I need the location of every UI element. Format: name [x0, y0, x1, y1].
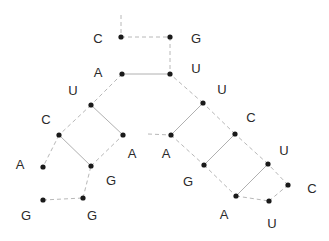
nucleotide-dot — [118, 34, 123, 39]
nucleotide-label: U — [267, 216, 276, 231]
backbone-layer — [43, 15, 288, 201]
nucleotide-label: A — [162, 146, 171, 161]
backbone-link — [148, 134, 171, 135]
nucleotide-dot — [40, 197, 45, 202]
nucleotide-u: U — [265, 143, 288, 166]
nucleotide-g: G — [80, 195, 97, 223]
nucleotide-c: C — [285, 181, 316, 196]
backbone-link — [83, 166, 91, 198]
nucleotide-a: A — [16, 157, 46, 172]
nucleotide-layer: CAUCAGGGAAGAUCUCUUG — [16, 31, 317, 231]
rna-structure-diagram: CAUCAGGGAAGAUCUCUUG — [0, 0, 329, 241]
nucleotide-dot — [200, 100, 205, 105]
nucleotide-label: U — [191, 61, 200, 76]
nucleotide-label: A — [16, 157, 25, 172]
nucleotide-g: G — [167, 31, 201, 46]
nucleotide-label: G — [183, 174, 193, 189]
nucleotide-dot — [167, 34, 172, 39]
nucleotide-label: A — [220, 207, 229, 222]
backbone-link — [269, 185, 288, 201]
base-pair-bond — [204, 134, 235, 165]
nucleotide-label: C — [41, 112, 50, 127]
backbone-link — [43, 198, 83, 200]
backbone-link — [171, 135, 204, 165]
nucleotide-label: U — [68, 83, 77, 98]
nucleotide-dot — [265, 161, 270, 166]
base-pair-bond — [236, 164, 268, 196]
nucleotide-u: U — [200, 82, 226, 105]
nucleotide-a: A — [162, 132, 174, 161]
nucleotide-label: U — [279, 143, 288, 158]
nucleotide-u: U — [266, 198, 276, 231]
nucleotide-dot — [56, 132, 61, 137]
nucleotide-dot — [88, 163, 93, 168]
nucleotide-label: A — [128, 146, 137, 161]
nucleotide-label: C — [307, 181, 316, 196]
nucleotide-g: G — [21, 197, 46, 223]
nucleotide-dot — [266, 198, 271, 203]
nucleotide-u: U — [167, 61, 200, 76]
nucleotide-label: G — [87, 208, 97, 223]
backbone-link — [203, 103, 235, 134]
nucleotide-dot — [119, 71, 124, 76]
base-pair-bond — [171, 103, 203, 135]
nucleotide-g: G — [183, 162, 207, 189]
nucleotide-u: U — [68, 83, 93, 107]
nucleotide-dot — [80, 195, 85, 200]
nucleotide-label: C — [246, 110, 255, 125]
nucleotide-label: U — [217, 82, 226, 97]
backbone-link — [204, 165, 236, 196]
nucleotide-label: G — [106, 173, 116, 188]
backbone-link — [43, 135, 59, 167]
nucleotide-a: A — [220, 193, 239, 222]
nucleotide-a: A — [94, 65, 125, 80]
nucleotide-c: C — [41, 112, 61, 137]
nucleotide-label: G — [191, 31, 201, 46]
backbone-link — [59, 105, 91, 135]
nucleotide-dot — [167, 71, 172, 76]
nucleotide-dot — [168, 132, 173, 137]
nucleotide-dot — [232, 131, 237, 136]
backbone-link — [268, 164, 288, 185]
backbone-link — [235, 134, 268, 164]
nucleotide-dot — [233, 193, 238, 198]
nucleotide-c: C — [93, 31, 123, 46]
nucleotide-dot — [285, 182, 290, 187]
nucleotide-dot — [120, 132, 125, 137]
backbone-link — [236, 196, 269, 201]
nucleotide-dot — [201, 162, 206, 167]
backbone-link — [91, 135, 123, 166]
nucleotide-a: A — [120, 132, 136, 161]
backbone-link — [170, 74, 203, 103]
nucleotide-dot — [88, 102, 93, 107]
nucleotide-g: G — [88, 163, 116, 188]
base-pair-bond — [91, 105, 123, 135]
nucleotide-label: C — [93, 31, 102, 46]
nucleotide-dot — [40, 164, 45, 169]
nucleotide-label: G — [21, 208, 31, 223]
base-pair-bond — [59, 135, 91, 166]
nucleotide-c: C — [232, 110, 255, 136]
nucleotide-label: A — [94, 65, 103, 80]
